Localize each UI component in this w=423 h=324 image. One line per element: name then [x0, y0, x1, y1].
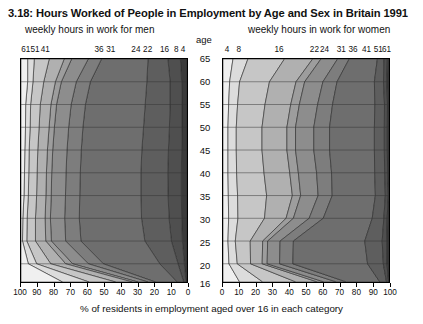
- stacked-area-men: [21, 59, 187, 282]
- x-tick: [20, 283, 21, 287]
- x-tick: [323, 283, 324, 287]
- x-tick: [239, 283, 240, 287]
- hour-boundary-label: 61: [382, 45, 391, 54]
- age-tick-label: 45: [188, 144, 222, 155]
- age-tick-label: 25: [188, 236, 222, 247]
- x-tick-label: 50: [301, 288, 310, 297]
- x-tick-label: 0: [186, 288, 191, 297]
- hour-boundary-label: 8: [237, 45, 242, 54]
- x-tick: [390, 283, 391, 287]
- chart-title: 3.18: Hours Worked of People in Employme…: [8, 7, 408, 19]
- x-tick-label: 80: [352, 288, 361, 297]
- x-tick: [272, 283, 273, 287]
- hour-boundary-label: 51: [31, 45, 40, 54]
- x-tick: [306, 283, 307, 287]
- x-axis-men: 1009080706050403020100: [20, 283, 188, 299]
- hour-boundary-label: 16: [160, 45, 169, 54]
- x-tick-label: 60: [318, 288, 327, 297]
- x-tick-label: 40: [285, 288, 294, 297]
- x-tick: [188, 283, 189, 287]
- x-tick: [138, 283, 139, 287]
- x-tick: [373, 283, 374, 287]
- x-tick: [37, 283, 38, 287]
- hour-boundary-label: 36: [94, 45, 103, 54]
- x-tick-label: 10: [167, 288, 176, 297]
- x-tick-label: 80: [49, 288, 58, 297]
- age-axis-title: age: [196, 34, 212, 45]
- hour-boundary-label: 8: [174, 45, 179, 54]
- age-tick-label: 20: [188, 259, 222, 270]
- x-tick-label: 70: [66, 288, 75, 297]
- plot-area-men: [20, 58, 188, 283]
- plot-area-women: [222, 58, 390, 283]
- age-tick-label: 50: [188, 121, 222, 132]
- hour-boundary-label: 31: [106, 45, 115, 54]
- hour-boundary-label: 4: [181, 45, 186, 54]
- age-tick-label: 16: [188, 278, 222, 289]
- x-tick-label: 30: [133, 288, 142, 297]
- hour-boundary-label: 16: [275, 45, 284, 54]
- age-tick-label: 60: [188, 75, 222, 86]
- age-tick-label: 65: [188, 53, 222, 64]
- x-tick: [87, 283, 88, 287]
- x-tick-label: 90: [32, 288, 41, 297]
- x-tick-label: 0: [220, 288, 225, 297]
- hour-boundary-label: 41: [362, 45, 371, 54]
- x-axis-caption: % of residents in employment aged over 1…: [0, 303, 423, 314]
- x-tick-label: 50: [99, 288, 108, 297]
- hour-boundary-label: 61: [21, 45, 30, 54]
- x-tick-label: 60: [83, 288, 92, 297]
- hour-boundary-label: 4: [225, 45, 230, 54]
- figure: 3.18: Hours Worked of People in Employme…: [0, 0, 423, 324]
- panel-caption-women: weekly hours in work for women: [248, 24, 390, 35]
- x-tick-label: 90: [369, 288, 378, 297]
- hour-boundary-label: 36: [348, 45, 357, 54]
- x-tick: [356, 283, 357, 287]
- x-tick-label: 20: [251, 288, 260, 297]
- x-tick: [256, 283, 257, 287]
- age-tick-label: 35: [188, 190, 222, 201]
- hour-boundary-label: 41: [41, 45, 50, 54]
- hour-boundary-label: 24: [131, 45, 140, 54]
- x-tick: [104, 283, 105, 287]
- hour-boundary-label: 22: [143, 45, 152, 54]
- hour-boundary-label: 24: [320, 45, 329, 54]
- hour-boundary-label: 22: [310, 45, 319, 54]
- x-tick: [289, 283, 290, 287]
- age-tick-label: 30: [188, 213, 222, 224]
- x-tick: [54, 283, 55, 287]
- x-tick-label: 100: [383, 288, 397, 297]
- stacked-area-women: [223, 59, 389, 282]
- age-tick-label: 55: [188, 98, 222, 109]
- age-axis: 6560555045403530252016: [188, 58, 222, 283]
- x-tick: [171, 283, 172, 287]
- x-tick: [121, 283, 122, 287]
- x-tick: [222, 283, 223, 287]
- x-tick-label: 40: [116, 288, 125, 297]
- x-tick-label: 20: [150, 288, 159, 297]
- hour-boundary-label: 31: [337, 45, 346, 54]
- x-tick: [154, 283, 155, 287]
- x-tick-label: 70: [335, 288, 344, 297]
- x-tick: [70, 283, 71, 287]
- x-tick-label: 30: [268, 288, 277, 297]
- x-tick-label: 10: [234, 288, 243, 297]
- panel-caption-men: weekly hours in work for men: [25, 24, 155, 35]
- x-tick-label: 100: [13, 288, 27, 297]
- x-axis-women: 0102030405060708090100: [222, 283, 390, 299]
- age-tick-label: 40: [188, 167, 222, 178]
- x-tick: [340, 283, 341, 287]
